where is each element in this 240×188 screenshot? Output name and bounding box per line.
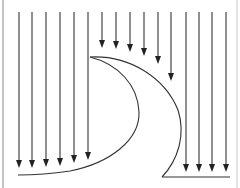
arrowhead-down-icon (71, 155, 77, 163)
arrowhead-down-icon (57, 158, 63, 166)
arrowhead-down-icon (155, 56, 161, 64)
diagram-canvas (0, 0, 240, 188)
arrowhead-down-icon (196, 164, 202, 172)
arrowhead-down-icon (223, 164, 229, 172)
arrowhead-down-icon (113, 41, 119, 49)
arrowhead-down-icon (141, 48, 147, 56)
arrowhead-down-icon (29, 160, 35, 168)
arrowhead-down-icon (16, 160, 22, 168)
arrowhead-down-icon (127, 44, 133, 52)
arrow-group-middle (99, 12, 174, 81)
crescent-outer-curve (90, 57, 181, 177)
arrow-group-left (16, 12, 91, 168)
diagram-svg (0, 0, 240, 188)
arrowhead-down-icon (183, 164, 189, 172)
arrowhead-down-icon (209, 164, 215, 172)
arrowhead-down-icon (85, 152, 91, 160)
crescent-inner-curve (18, 57, 139, 175)
arrowhead-down-icon (168, 73, 174, 81)
arrow-group-right (183, 12, 229, 172)
arrowhead-down-icon (99, 40, 105, 48)
arrowhead-down-icon (43, 159, 49, 167)
